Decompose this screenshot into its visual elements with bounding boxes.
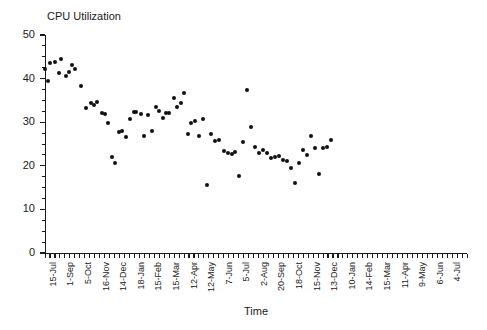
y-axis-minor-tick bbox=[42, 56, 45, 57]
data-point bbox=[48, 61, 52, 65]
x-axis-tick-label: 11-Apr bbox=[400, 262, 410, 322]
x-axis-minor-tick bbox=[352, 254, 353, 258]
x-axis-minor-tick bbox=[447, 254, 448, 258]
x-axis-minor-tick bbox=[159, 254, 160, 258]
x-axis-minor-tick bbox=[337, 254, 338, 258]
x-axis-tick-label: 16-Nov bbox=[101, 262, 111, 322]
x-axis-tick-label: 4-Jul bbox=[452, 262, 462, 322]
x-axis-minor-tick bbox=[94, 254, 95, 258]
y-axis-tick-label: 30 bbox=[3, 115, 35, 127]
y-axis-minor-tick bbox=[42, 144, 45, 145]
x-axis-minor-tick bbox=[367, 254, 368, 258]
x-axis-tick-label: 9-May bbox=[417, 262, 427, 322]
x-axis-tick-label: 15-Jul bbox=[48, 262, 58, 322]
data-point bbox=[305, 153, 309, 157]
x-axis-minor-tick bbox=[114, 254, 115, 258]
data-point bbox=[157, 109, 161, 113]
x-axis-minor-tick bbox=[427, 254, 428, 258]
data-point bbox=[150, 129, 154, 133]
data-point bbox=[293, 181, 297, 185]
x-axis-tick-label: 14-Dec bbox=[118, 262, 128, 322]
x-axis-minor-tick bbox=[437, 254, 438, 258]
x-axis-minor-tick bbox=[154, 254, 155, 258]
data-point bbox=[161, 116, 165, 120]
x-axis-minor-tick bbox=[74, 254, 75, 258]
x-axis-minor-tick bbox=[54, 254, 55, 258]
x-axis-tick-label: 1-Sep bbox=[65, 262, 75, 322]
data-point bbox=[193, 119, 197, 123]
data-point bbox=[172, 96, 176, 100]
x-axis-minor-tick bbox=[332, 254, 333, 258]
data-point bbox=[309, 134, 313, 138]
y-axis-minor-tick bbox=[42, 133, 45, 134]
y-axis-tick-label: 0 bbox=[3, 246, 35, 258]
data-point bbox=[249, 125, 253, 129]
x-axis-minor-tick bbox=[45, 254, 46, 258]
x-axis-minor-tick bbox=[362, 254, 363, 258]
data-point bbox=[329, 138, 333, 142]
data-point bbox=[57, 71, 61, 75]
data-point bbox=[146, 113, 150, 117]
data-point bbox=[257, 151, 261, 155]
x-axis-minor-tick bbox=[457, 254, 458, 258]
data-point bbox=[325, 145, 329, 149]
data-point bbox=[120, 129, 124, 133]
data-point bbox=[46, 79, 50, 83]
x-axis-minor-tick bbox=[327, 254, 328, 258]
data-point bbox=[277, 154, 281, 158]
data-point bbox=[313, 146, 317, 150]
x-axis-minor-tick bbox=[59, 254, 60, 258]
data-point bbox=[134, 110, 138, 114]
x-axis-minor-tick bbox=[238, 254, 239, 258]
x-axis-minor-tick bbox=[233, 254, 234, 258]
data-point bbox=[205, 183, 209, 187]
y-axis-minor-tick bbox=[42, 231, 45, 232]
x-axis-minor-tick bbox=[203, 254, 204, 258]
x-axis-title: Time bbox=[176, 305, 336, 317]
y-axis-tick bbox=[40, 34, 45, 35]
data-point bbox=[92, 103, 96, 107]
x-axis-tick-label: 14-Feb bbox=[364, 262, 374, 322]
data-point bbox=[95, 100, 99, 104]
x-axis-minor-tick bbox=[412, 254, 413, 258]
x-axis-minor-tick bbox=[432, 254, 433, 258]
x-axis-tick-label: 18-Jan bbox=[136, 262, 146, 322]
x-axis-minor-tick bbox=[303, 254, 304, 258]
x-axis-minor-tick bbox=[382, 254, 383, 258]
x-axis-minor-tick bbox=[268, 254, 269, 258]
x-axis-minor-tick bbox=[64, 254, 65, 258]
x-axis-minor-tick bbox=[208, 254, 209, 258]
y-axis-minor-tick bbox=[42, 187, 45, 188]
x-axis-minor-tick bbox=[283, 254, 284, 258]
data-point bbox=[124, 135, 128, 139]
y-axis-tick-label: 50 bbox=[3, 28, 35, 40]
x-axis-minor-tick bbox=[164, 254, 165, 258]
x-axis-minor-tick bbox=[99, 254, 100, 258]
data-point bbox=[67, 70, 71, 74]
x-axis-minor-tick bbox=[84, 254, 85, 258]
data-point bbox=[321, 146, 325, 150]
y-axis-tick-label: 40 bbox=[3, 72, 35, 84]
x-axis-minor-tick bbox=[308, 254, 309, 258]
x-axis-minor-tick bbox=[392, 254, 393, 258]
x-axis-minor-tick bbox=[119, 254, 120, 258]
x-axis-minor-tick bbox=[372, 254, 373, 258]
x-axis-minor-tick bbox=[79, 254, 80, 258]
x-axis-tick-label: 15-Feb bbox=[153, 262, 163, 322]
x-axis-minor-tick bbox=[313, 254, 314, 258]
data-point bbox=[265, 151, 269, 155]
y-axis-minor-tick bbox=[42, 176, 45, 177]
x-axis-minor-tick bbox=[144, 254, 145, 258]
data-point bbox=[167, 111, 171, 115]
x-axis-minor-tick bbox=[318, 254, 319, 258]
x-axis-minor-tick bbox=[149, 254, 150, 258]
x-axis-minor-tick bbox=[109, 254, 110, 258]
data-point bbox=[182, 91, 186, 95]
x-axis-minor-tick bbox=[139, 254, 140, 258]
data-point bbox=[73, 67, 77, 71]
x-axis-minor-tick bbox=[402, 254, 403, 258]
x-axis-tick-label: 10-Jan bbox=[347, 262, 357, 322]
x-axis-minor-tick bbox=[134, 254, 135, 258]
data-point bbox=[103, 112, 107, 116]
x-axis-minor-tick bbox=[347, 254, 348, 258]
